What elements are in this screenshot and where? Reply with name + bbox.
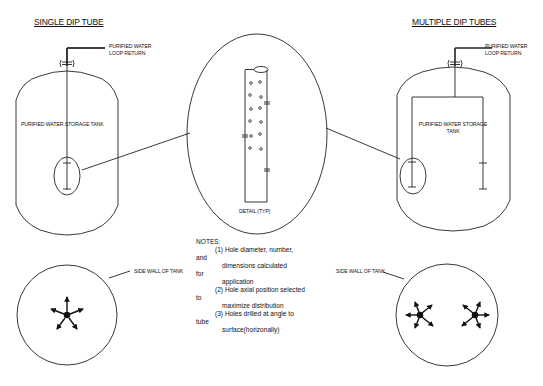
notes-heading: NOTES:	[196, 238, 346, 246]
loop-return-label-left: PURIFIED WATER LOOP RETURN	[109, 43, 151, 56]
label-line: PURIFIED WATER STORAGE	[412, 121, 494, 128]
left-spray-pattern	[51, 297, 83, 329]
detail-ellipse	[187, 34, 327, 234]
label-line: TANK	[412, 128, 494, 135]
label-line: PURIFIED WATER	[109, 43, 151, 50]
right-spray-pattern-2	[462, 302, 489, 328]
right-manifold	[412, 97, 483, 189]
label-line: LOOP RETURN	[109, 50, 151, 57]
note-line: for	[196, 270, 346, 278]
note-line: surface(horizonally)	[196, 326, 346, 334]
tube-holes	[249, 81, 263, 151]
tank-label-right: PURIFIED WATER STORAGE TANK	[412, 121, 494, 134]
side-wall-label-left: SIDE WALL OF TANK	[134, 268, 183, 275]
detail-label: DETAIL (TYP)	[239, 208, 270, 215]
loop-return-label-right: PURIFIED WATER LOOP RETURN	[485, 43, 527, 56]
title-multiple-dip-tubes: MULTIPLE DIP TUBES	[412, 17, 496, 27]
label-line: PURIFIED WATER	[485, 43, 527, 50]
notes-block: NOTES: (1) Hole diameter, number, and di…	[196, 238, 346, 334]
note-line: (2) Hole axial position selected	[196, 286, 346, 294]
tank-label-left: PURIFIED WATER STORAGE TANK	[21, 121, 104, 128]
note-line: tube	[196, 318, 346, 326]
dip-tube-detail	[242, 67, 270, 203]
right-leader-line	[326, 128, 400, 159]
label-line: LOOP RETURN	[485, 50, 527, 57]
note-line: dimensions calculated	[196, 262, 346, 270]
note-line: maximize distribution	[196, 302, 346, 310]
note-line: (3) Holes drilled at angle to	[196, 310, 346, 318]
note-line: to	[196, 294, 346, 302]
right-spray-pattern-1	[406, 302, 433, 328]
title-single-dip-tube: SINGLE DIP TUBE	[34, 17, 103, 27]
left-leader-line	[82, 133, 190, 170]
note-line: and	[196, 254, 346, 262]
right-tank	[397, 67, 510, 231]
note-line: application	[196, 278, 346, 286]
note-line: (1) Hole diameter, number,	[196, 246, 346, 254]
right-detail-callout	[400, 158, 426, 194]
